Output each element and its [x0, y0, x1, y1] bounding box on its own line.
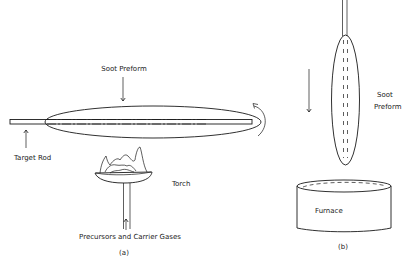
rotation-arrow-icon: [254, 106, 265, 136]
label-furnace: Furnace: [315, 207, 343, 215]
label-soot-preform-a: Soot Preform: [101, 65, 147, 73]
label-soot-b-line1: Soot: [377, 91, 393, 99]
label-target-rod: Target Rod: [13, 154, 51, 162]
furnace-opening-dashed: [303, 182, 386, 187]
label-torch: Torch: [171, 180, 190, 188]
furnace-body: [297, 186, 391, 232]
panel-a: Soot Preform Target Rod Torch Precursors…: [10, 65, 265, 257]
soot-preform-horizontal: [45, 106, 261, 138]
soot-preform-diagram: Soot Preform Target Rod Torch Precursors…: [0, 0, 411, 263]
target-rod: [10, 120, 252, 125]
label-precursors: Precursors and Carrier Gases: [79, 233, 181, 241]
label-soot-b-line2: Preform: [374, 103, 402, 111]
soot-preform-vertical: [332, 35, 360, 165]
panel-b: Soot Preform Furnace (b): [297, 0, 402, 251]
caption-b: (b): [338, 243, 348, 251]
caption-a: (a): [119, 249, 129, 257]
furnace-top-rim: [297, 180, 391, 192]
